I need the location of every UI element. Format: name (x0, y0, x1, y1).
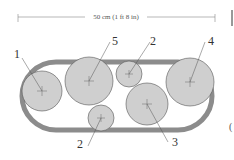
label-4: 4 (208, 34, 214, 48)
label-2-bottom: 2 (77, 137, 83, 151)
cropped-text-fragment-2: ( (229, 121, 233, 133)
dimension-label: 50 cm (1 ft 8 in) (93, 13, 139, 21)
label-1: 1 (14, 47, 20, 61)
label-2-top: 2 (150, 34, 156, 48)
label-3: 3 (172, 135, 178, 149)
planting-diagram: 50 cm (1 ft 8 in) 1 5 2 4 2 3 ( (0, 0, 234, 160)
label-5: 5 (112, 34, 118, 48)
